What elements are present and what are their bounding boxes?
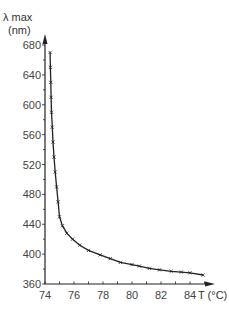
x-tick-label: 84: [184, 289, 196, 301]
x-tick-label: 80: [126, 289, 138, 301]
y-tick-label: 600: [23, 99, 41, 111]
data-curve: [50, 53, 203, 276]
y-tick-label: 560: [23, 129, 41, 141]
y-tick-label: 400: [23, 248, 41, 260]
axes: [43, 34, 216, 287]
y-tick-label: 680: [23, 39, 41, 51]
y-tick-label: 440: [23, 218, 41, 230]
y-axis-label-line2: (nm): [8, 24, 31, 36]
x-tick-label: 82: [155, 289, 167, 301]
y-tick-label: 480: [23, 188, 41, 200]
y-axis-ticks: 360400440480520560600640680: [23, 39, 45, 290]
y-axis-label-line1: λ max: [3, 11, 33, 23]
x-axis-label: T (°C): [198, 289, 227, 301]
y-tick-label: 640: [23, 69, 41, 81]
x-tick-label: 76: [68, 289, 80, 301]
x-tick-label: 78: [97, 289, 109, 301]
chart: λ max (nm) 360400440480520560600640680 7…: [0, 0, 229, 311]
x-tick-label: 74: [39, 289, 51, 301]
y-tick-label: 520: [23, 159, 41, 171]
data-markers: [48, 51, 204, 277]
